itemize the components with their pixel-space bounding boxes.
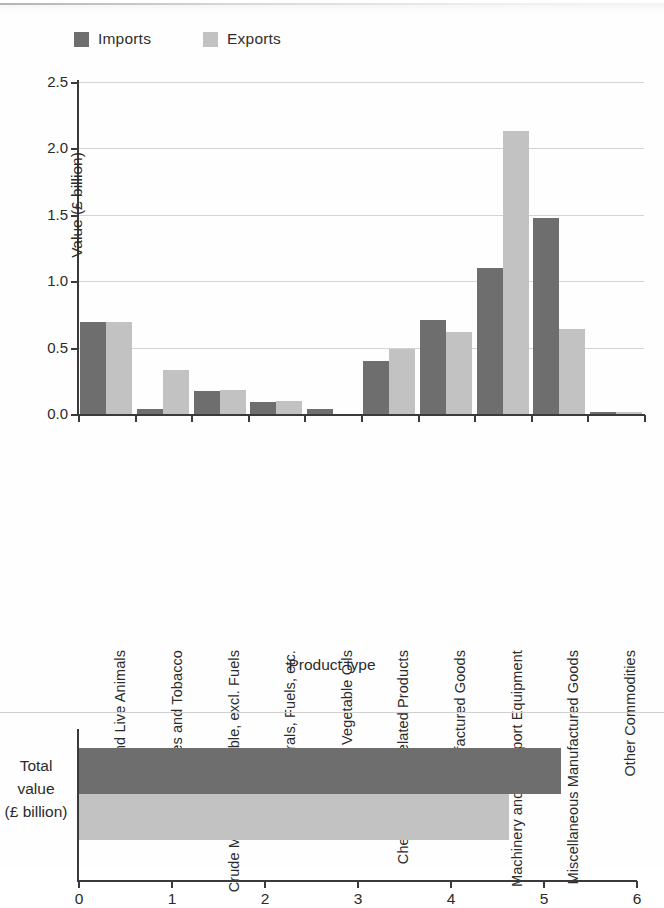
bar-exports — [106, 322, 132, 414]
total-x-tick — [264, 881, 266, 888]
total-label-line-1: Total — [0, 754, 72, 777]
total-x-tick — [450, 881, 452, 888]
bar-exports — [220, 390, 246, 414]
main-bar-chart: 0.00.51.01.52.02.5 Value (£ billion) Foo… — [0, 0, 664, 690]
total-x-tick-label: 5 — [529, 890, 559, 908]
bar-imports — [363, 361, 389, 414]
bar-imports — [307, 409, 333, 414]
x-tick — [644, 415, 646, 422]
x-tick — [474, 415, 476, 422]
x-tick — [248, 415, 250, 422]
bar-imports — [477, 268, 503, 414]
y-tick-label: 1.0 — [22, 272, 68, 289]
total-label-line-2: value — [0, 777, 72, 800]
bars-group — [78, 82, 644, 414]
y-tick-label: 0.5 — [22, 339, 68, 356]
total-x-tick — [357, 881, 359, 888]
x-tick — [78, 415, 80, 422]
total-x-tick — [78, 881, 80, 888]
x-tick — [304, 415, 306, 422]
x-tick — [135, 415, 137, 422]
total-x-tick-label: 4 — [436, 890, 466, 908]
x-tick — [361, 415, 363, 422]
total-x-tick-label: 2 — [250, 890, 280, 908]
total-chart-axis-label: Total value (£ billion) — [0, 754, 72, 823]
total-value-chart: Total value (£ billion) 0123456 — [0, 712, 664, 867]
total-x-tick-label: 0 — [64, 890, 94, 908]
total-bars-group — [79, 748, 637, 844]
bar-imports — [533, 218, 559, 415]
bar-exports — [276, 401, 302, 414]
bar-imports — [590, 412, 616, 414]
bar-imports — [420, 320, 446, 414]
bar-exports — [163, 370, 189, 414]
total-x-tick — [636, 881, 638, 888]
x-tick — [531, 415, 533, 422]
total-x-tick — [171, 881, 173, 888]
total-x-tick-label: 1 — [157, 890, 187, 908]
y-tick-label: 2.0 — [22, 139, 68, 156]
bar-imports — [80, 322, 106, 414]
total-bar-imports — [79, 748, 561, 794]
total-label-line-3: (£ billion) — [0, 800, 72, 823]
x-tick — [191, 415, 193, 422]
bar-exports — [559, 329, 585, 414]
bar-exports — [503, 131, 529, 414]
y-tick-label: 1.5 — [22, 206, 68, 223]
x-tick — [418, 415, 420, 422]
x-tick — [587, 415, 589, 422]
bar-exports — [389, 349, 415, 414]
total-bar-exports — [79, 794, 509, 840]
total-x-tick — [543, 881, 545, 888]
y-tick-label: 0.0 — [22, 405, 68, 422]
bar-exports — [446, 332, 472, 414]
total-x-tick-label: 3 — [343, 890, 373, 908]
x-axis-title: Product type — [0, 656, 664, 674]
total-x-tick-label: 6 — [622, 890, 652, 908]
category-labels-group: Food and Live AnimalsBeverages and Tobac… — [78, 422, 644, 657]
y-tick-label: 2.5 — [22, 73, 68, 90]
bar-imports — [137, 409, 163, 414]
bar-imports — [250, 402, 276, 414]
bar-exports — [616, 412, 642, 414]
bar-imports — [194, 391, 220, 414]
